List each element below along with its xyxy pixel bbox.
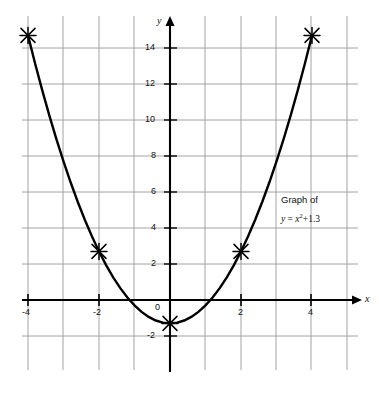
ytick-label-8: 8 <box>151 151 156 160</box>
marker-point--2-2.7 <box>91 243 107 259</box>
y-axis-arrowhead <box>166 16 175 26</box>
coordinate-plane <box>0 0 379 396</box>
ytick-label-14: 14 <box>145 43 155 52</box>
xtick-label--4: -4 <box>22 308 30 317</box>
ytick-label-12: 12 <box>145 79 155 88</box>
equation-constant: +1.3 <box>303 214 320 224</box>
ytick-label--2: -2 <box>147 331 155 340</box>
xtick-label--2: -2 <box>93 308 101 317</box>
graph-annotation: Graph of y = x2+1.3 <box>281 192 320 227</box>
xtick-label-2: 2 <box>238 308 243 317</box>
equation-equals: = <box>285 214 295 224</box>
annotation-equation: y = x2+1.3 <box>281 208 320 227</box>
ytick-label-6: 6 <box>151 187 156 196</box>
xtick-label-4: 4 <box>308 308 313 317</box>
x-axis-label: x <box>365 294 369 304</box>
ytick-label-4: 4 <box>151 223 156 232</box>
marker-point-4-14.7 <box>304 27 320 43</box>
ytick-label-0: 0 <box>155 303 160 312</box>
ytick-label-10: 10 <box>145 115 155 124</box>
marker-point-2-2.7 <box>233 243 249 259</box>
marker-point-0--1.3 <box>162 315 178 331</box>
marker-point--4-14.7 <box>20 27 36 43</box>
ytick-label-2: 2 <box>151 259 156 268</box>
graph-figure: 14 12 10 8 6 4 2 0 -2 -4 -2 2 4 y x Grap… <box>0 0 379 396</box>
x-axis-arrowhead <box>352 296 362 305</box>
annotation-line-1: Graph of <box>281 192 320 208</box>
x-axis <box>22 294 362 306</box>
y-axis-label: y <box>157 16 161 26</box>
